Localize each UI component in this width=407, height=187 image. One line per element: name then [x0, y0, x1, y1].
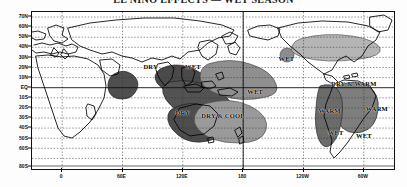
dry-warm-camer: DRY & WARM [331, 79, 376, 86]
y-tick-label: 30N [19, 54, 28, 60]
x-tick-label: 120W [296, 173, 309, 179]
y-tick-label: 40S [19, 124, 28, 130]
y-tick-label: 80S [19, 163, 28, 169]
x-axis: 060E120E180120W60W [31, 168, 393, 186]
wet-ecpacific: WET [185, 62, 201, 69]
y-tick-label: 10N [19, 74, 28, 80]
x-tick-mark [182, 168, 183, 172]
dry-australia: DRY [176, 109, 190, 116]
x-tick-label: 0 [60, 173, 63, 179]
y-tick-label: 10S [19, 94, 28, 100]
y-tick-label: 40N [19, 43, 28, 49]
map-annotations: DRYWETDRYDRY & COOLWETWETDRY & WARMWARMW… [32, 12, 394, 169]
warm-cpacific: WARM [319, 107, 341, 114]
wet-argentina: WET [356, 131, 372, 138]
page-title: EL NIÑO EFFECTS — WET SEASON [0, 0, 407, 5]
wet-peru: WET [328, 128, 344, 135]
x-tick-label: 120E [176, 173, 188, 179]
y-tick-label: 60N [19, 23, 28, 29]
x-tick-label: 180 [238, 173, 246, 179]
x-tick-label: 60W [358, 173, 368, 179]
y-tick-label: 60S [19, 145, 28, 151]
x-tick-mark [122, 168, 123, 172]
y-tick-label: 30S [19, 114, 28, 120]
map-frame: DRYWETDRYDRY & COOLWETWETDRY & WARMWARMW… [31, 11, 395, 170]
x-tick-mark [242, 168, 243, 172]
x-tick-mark [61, 168, 62, 172]
y-tick-label: 20N [19, 64, 28, 70]
y-tick-label: 70N [19, 13, 28, 19]
dry-cool-seas: DRY & COOL [201, 112, 244, 119]
x-tick-label: 60E [117, 173, 126, 179]
x-tick-mark [303, 168, 304, 172]
y-tick-label: 20S [19, 104, 28, 110]
y-tick-label: 50S [19, 135, 28, 141]
warm-brazil: WARM [366, 105, 388, 112]
y-tick-label: 50N [19, 33, 28, 39]
x-tick-mark [363, 168, 364, 172]
wet-npacific: WET [279, 54, 295, 61]
elnino-effects-map: EL NIÑO EFFECTS — WET SEASON 70N60N50N40… [0, 0, 407, 187]
dry-india: DRY [143, 62, 157, 69]
wet-spacific: WET [247, 88, 263, 95]
y-tick-label: EQ [21, 84, 28, 90]
y-axis: 70N60N50N40N30N20N10NEQ10S20S30S40S50S60… [0, 11, 31, 168]
